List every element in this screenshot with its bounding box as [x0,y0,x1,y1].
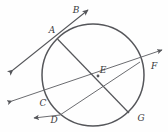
point-label-B: B [72,5,80,15]
geometry-diagram: A B C D E F G [0,0,168,132]
point-label-C: C [40,98,47,108]
point-label-D: D [49,115,57,125]
point-label-E: E [99,65,107,75]
secant-line-a-b [13,10,88,70]
point-e-dot [97,75,100,78]
geometry-canvas: A B C D E F G [0,0,168,132]
secant-line-c-f [12,50,162,101]
point-label-G: G [137,113,144,123]
point-label-A: A [48,25,56,35]
point-label-F: F [150,61,158,71]
